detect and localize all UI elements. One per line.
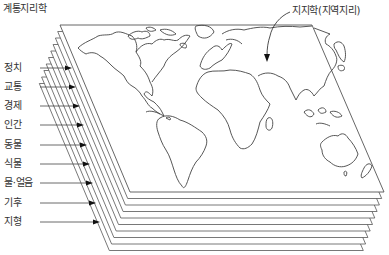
layer-label: 지형 bbox=[4, 216, 21, 228]
sheet-stack bbox=[39, 25, 384, 251]
regional-geography-label: 지지학(지역지리) bbox=[292, 5, 360, 17]
systematic-geography-title: 계통지리학 bbox=[3, 3, 47, 15]
layer-label: 물·얼음 bbox=[4, 177, 33, 189]
map-stack-graphic bbox=[0, 0, 389, 255]
layer-label: 기후 bbox=[4, 197, 21, 209]
layer-label: 인간 bbox=[4, 119, 21, 131]
layer-label: 경제 bbox=[4, 100, 21, 112]
layer-label: 정치 bbox=[4, 62, 21, 74]
layer-label: 식물 bbox=[4, 158, 21, 170]
layer-label: 교통 bbox=[4, 81, 21, 93]
layer-label: 동물 bbox=[4, 139, 21, 151]
layered-map-diagram: 계통지리학 지지학(지역지리) 정치교통경제인간동물식물물·얼음기후지형 bbox=[0, 0, 389, 255]
